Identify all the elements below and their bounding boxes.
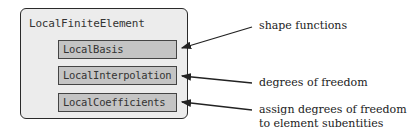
arrow-shape-functions <box>182 27 252 48</box>
arrow-degrees-of-freedom <box>182 76 252 83</box>
assign-dofs-label-line2: to element subentities <box>259 117 383 131</box>
assign-dofs-label-line1: assign degrees of freedom <box>259 103 407 117</box>
degrees-of-freedom-label: degrees of freedom <box>259 76 368 90</box>
shape-functions-label: shape functions <box>259 19 347 33</box>
arrow-assign-dofs <box>182 102 252 110</box>
